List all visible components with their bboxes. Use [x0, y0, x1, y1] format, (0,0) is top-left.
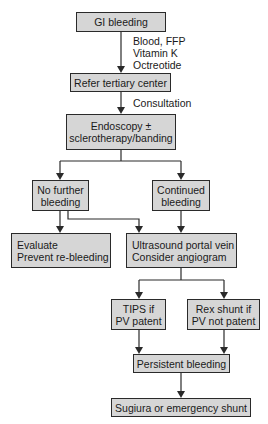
node-no-further-bleeding: No further bleeding — [32, 180, 89, 211]
edge-label-line: Blood, FFP — [133, 35, 186, 47]
node-label: bleeding — [41, 196, 81, 208]
node-label: TIPS if — [123, 303, 155, 315]
node-label: PV patent — [115, 315, 161, 327]
node-sugiura-or-emergency-shunt: Sugiura or emergency shunt — [111, 398, 251, 417]
node-label: Continued — [157, 184, 205, 196]
node-label: sclerotherapy/banding — [69, 132, 172, 144]
node-endoscopy: Endoscopy ± sclerotherapy/banding — [66, 114, 176, 150]
node-label: Rex shunt if — [196, 303, 251, 315]
node-label: Ultrasound portal vein — [132, 239, 234, 251]
node-tips: TIPS if PV patent — [111, 299, 166, 330]
node-label: Prevent re-bleeding — [17, 251, 109, 263]
node-label: Endoscopy ± — [91, 120, 152, 132]
node-label: Sugiura or emergency shunt — [115, 402, 247, 414]
edge-label-line: Octreotide — [133, 59, 186, 71]
node-label: No further — [37, 184, 84, 196]
node-ultrasound-portal-vein: Ultrasound portal vein Consider angiogra… — [126, 233, 237, 268]
node-evaluate: Evaluate Prevent re-bleeding — [11, 233, 111, 268]
node-refer-tertiary-center: Refer tertiary center — [70, 73, 171, 92]
node-persistent-bleeding: Persistent bleeding — [133, 354, 230, 373]
node-label: PV not patent — [192, 315, 256, 327]
edge-label-line: Consultation — [133, 97, 191, 109]
node-label: Evaluate — [17, 239, 58, 251]
node-label: Persistent bleeding — [137, 358, 226, 370]
edge-label-consultation: Consultation — [133, 97, 191, 109]
node-label: bleeding — [161, 196, 201, 208]
node-label: Consider angiogram — [132, 251, 227, 263]
node-continued-bleeding: Continued bleeding — [152, 180, 210, 211]
node-label: GI bleeding — [94, 16, 148, 28]
edge-label-initial-treatment: Blood, FFP Vitamin K Octreotide — [133, 35, 186, 71]
node-label: Refer tertiary center — [74, 77, 167, 89]
node-gi-bleeding: GI bleeding — [76, 12, 166, 32]
edge-label-line: Vitamin K — [133, 47, 186, 59]
node-rex-shunt: Rex shunt if PV not patent — [187, 299, 260, 330]
